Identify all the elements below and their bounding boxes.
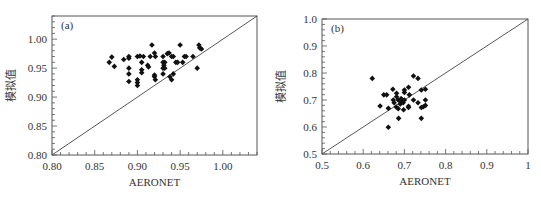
data-point xyxy=(369,76,375,82)
y-tick-label: 0.90 xyxy=(28,91,48,103)
one-to-one-line xyxy=(322,19,528,154)
data-point xyxy=(126,65,132,71)
data-point xyxy=(135,83,141,89)
data-point xyxy=(126,79,132,85)
data-point xyxy=(160,54,166,60)
y-tick-label: 1.00 xyxy=(28,33,48,45)
data-point xyxy=(141,54,147,60)
chart-a: 0.800.850.900.951.000.800.850.900.951.00… xyxy=(0,0,270,198)
data-point xyxy=(411,73,417,79)
x-tick-label: 0.6 xyxy=(356,159,370,171)
data-point xyxy=(139,70,145,76)
x-tick-label: 0.8 xyxy=(439,159,453,171)
y-axis-label: 模拟值 xyxy=(4,69,17,102)
data-point xyxy=(407,92,413,98)
x-axis-label: AERONET xyxy=(129,176,181,188)
data-point xyxy=(401,107,407,113)
x-tick-label: 0.90 xyxy=(128,160,148,172)
y-tick-label: 0.7 xyxy=(303,94,317,106)
data-point xyxy=(386,106,392,112)
one-to-one-line xyxy=(52,16,257,155)
data-point xyxy=(147,54,153,60)
panel-label: (a) xyxy=(61,19,74,32)
y-tick-label: 0.8 xyxy=(303,67,317,79)
data-point xyxy=(180,60,186,66)
y-tick-label: 0.5 xyxy=(303,148,317,160)
data-point xyxy=(415,100,421,106)
data-point xyxy=(377,103,383,109)
data-point xyxy=(418,116,424,122)
x-tick-label: 1.00 xyxy=(213,160,233,172)
scatter-plot-b: 0.50.60.70.80.910.50.60.70.80.91.0AERONE… xyxy=(270,0,541,198)
y-axis-label: 模拟值 xyxy=(274,70,287,103)
y-tick-label: 0.85 xyxy=(28,120,48,132)
data-point xyxy=(384,92,390,98)
x-tick-label: 0.5 xyxy=(315,159,329,171)
data-point xyxy=(415,76,421,82)
x-axis-label: AERONET xyxy=(399,175,451,187)
x-tick-label: 0.80 xyxy=(42,160,62,172)
x-tick-label: 0.7 xyxy=(398,159,412,171)
data-point xyxy=(121,57,127,63)
data-point xyxy=(390,86,396,92)
y-tick-label: 0.9 xyxy=(303,40,317,52)
data-point xyxy=(177,42,183,48)
y-tick-label: 0.95 xyxy=(28,62,48,74)
y-tick-label: 1.0 xyxy=(303,13,317,25)
data-point xyxy=(126,71,132,77)
data-point xyxy=(396,116,402,122)
y-tick-label: 0.80 xyxy=(28,149,48,161)
x-tick-label: 0.85 xyxy=(85,160,105,172)
panel-label: (b) xyxy=(331,22,344,35)
x-tick-label: 0.95 xyxy=(171,160,191,172)
chart-b: 0.50.60.70.80.910.50.60.70.80.91.0AERONE… xyxy=(270,0,541,198)
data-point xyxy=(139,60,145,66)
data-point xyxy=(194,65,200,71)
data-point xyxy=(149,42,155,48)
x-tick-label: 1 xyxy=(525,159,531,171)
data-point xyxy=(109,54,115,60)
scatter-plot-a: 0.800.850.900.951.000.800.850.900.951.00… xyxy=(0,0,270,198)
data-point xyxy=(386,124,392,130)
data-point xyxy=(160,71,166,77)
y-tick-label: 0.6 xyxy=(303,121,317,133)
data-point xyxy=(112,64,118,70)
data-point xyxy=(106,60,112,66)
data-point xyxy=(406,85,412,91)
data-point xyxy=(423,97,429,103)
x-tick-label: 0.9 xyxy=(480,159,494,171)
data-point xyxy=(411,97,417,103)
